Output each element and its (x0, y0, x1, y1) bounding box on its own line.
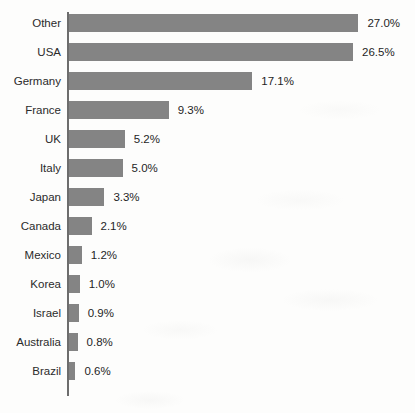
bar (69, 304, 79, 322)
bar (69, 130, 125, 148)
bar (69, 275, 80, 293)
bar-value-label: 3.3% (113, 188, 139, 206)
bar (69, 217, 92, 235)
bar-value-label: 1.0% (89, 275, 115, 293)
bar (69, 101, 169, 119)
category-label: France (0, 101, 61, 119)
category-label: Germany (0, 72, 61, 90)
bar (69, 362, 75, 380)
category-label: Australia (0, 333, 61, 351)
bar-value-label: 1.2% (91, 246, 117, 264)
bar-value-label: 0.8% (87, 333, 113, 351)
bar-row: Brazil0.6% (0, 362, 415, 391)
category-label: Korea (0, 275, 61, 293)
category-label: Mexico (0, 246, 61, 264)
category-label: Brazil (0, 362, 61, 380)
category-label: Italy (0, 159, 61, 177)
bar-chart: Other27.0%USA26.5%Germany17.1%France9.3%… (0, 0, 415, 413)
category-label: Israel (0, 304, 61, 322)
bar-row: UK5.2% (0, 130, 415, 159)
bar-row: Mexico1.2% (0, 246, 415, 275)
bar-row: France9.3% (0, 101, 415, 130)
bar-value-label: 27.0% (367, 14, 400, 32)
bar-row: Canada2.1% (0, 217, 415, 246)
category-label: USA (0, 43, 61, 61)
bar-row: Israel0.9% (0, 304, 415, 333)
bar-value-label: 17.1% (261, 72, 294, 90)
bar-row: Germany17.1% (0, 72, 415, 101)
bar-value-label: 5.0% (132, 159, 158, 177)
bar (69, 72, 252, 90)
bar-row: Korea1.0% (0, 275, 415, 304)
bar (69, 188, 104, 206)
bar-row: USA26.5% (0, 43, 415, 72)
bar-row: Japan3.3% (0, 188, 415, 217)
bar (69, 159, 123, 177)
bar (69, 333, 78, 351)
category-label: Other (0, 14, 61, 32)
plot-area: Other27.0%USA26.5%Germany17.1%France9.3%… (0, 0, 415, 413)
bar-value-label: 26.5% (362, 43, 395, 61)
bar-value-label: 5.2% (134, 130, 160, 148)
category-label: UK (0, 130, 61, 148)
bar (69, 14, 358, 32)
bar-value-label: 2.1% (101, 217, 127, 235)
bar-value-label: 0.6% (84, 362, 110, 380)
bar (69, 43, 353, 61)
bar-row: Italy5.0% (0, 159, 415, 188)
bar-value-label: 0.9% (88, 304, 114, 322)
bar (69, 246, 82, 264)
category-label: Canada (0, 217, 61, 235)
bar-value-label: 9.3% (178, 101, 204, 119)
bar-row: Other27.0% (0, 14, 415, 43)
bar-row: Australia0.8% (0, 333, 415, 362)
category-label: Japan (0, 188, 61, 206)
